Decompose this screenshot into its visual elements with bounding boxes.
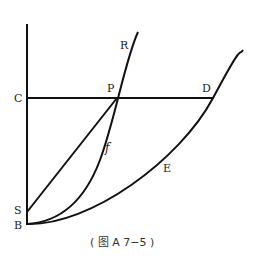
label-d: D <box>202 82 211 95</box>
label-b: B <box>14 219 22 232</box>
label-c: C <box>14 92 22 105</box>
label-e: E <box>163 162 171 175</box>
diagram-canvas: R C P D f E S B ( 图 A 7−5 ) <box>0 0 260 269</box>
label-r: R <box>120 39 129 52</box>
label-s: S <box>14 204 22 217</box>
label-p: P <box>107 82 115 95</box>
curve-f <box>27 32 138 224</box>
figure-caption: ( 图 A 7−5 ) <box>90 236 154 249</box>
label-f: f <box>104 141 112 155</box>
line-sp <box>27 98 117 212</box>
curve-e <box>27 50 243 224</box>
